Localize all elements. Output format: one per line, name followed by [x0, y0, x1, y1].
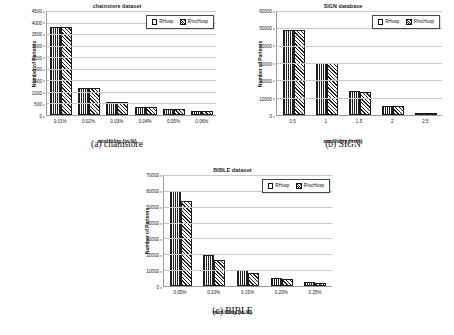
y-tick-label: 50000: [146, 205, 159, 210]
legend-b: RHusp RIncHusp: [372, 15, 440, 29]
legend-label-rhusp-b: RHusp: [385, 19, 399, 24]
gridline: [47, 46, 216, 47]
legend-label-rinchusp-b: RIncHusp: [414, 19, 434, 24]
x-tick-label: 2.5: [422, 119, 428, 124]
gridline: [164, 254, 332, 255]
gridline: [164, 223, 332, 224]
x-axis-ticks-a: 0.01%0.02%0.03%0.04%0.05%0.06%: [12, 116, 222, 127]
y-tick-label: 3000: [32, 43, 42, 48]
y-tick-label: 2000: [32, 67, 42, 72]
gridline: [47, 11, 216, 12]
x-tick-label: 0.5: [289, 119, 295, 124]
legend-item-rinchusp-c: RIncHusp: [296, 183, 324, 189]
legend-item-rhusp-a: RHusp: [152, 19, 174, 25]
plot-area-a: Number of Patterns 050010001500200025003…: [12, 11, 222, 116]
legend-swatch-icon-rinchusp-b: [406, 19, 412, 25]
bar-RIncHusp: [360, 92, 371, 115]
y-tick-label: 30000: [146, 237, 159, 242]
y-tick-label: 4500: [32, 9, 42, 14]
y-tick-label: 20000: [146, 253, 159, 258]
bar-RIncHusp: [214, 260, 225, 286]
bar-RHusp: [316, 63, 327, 115]
y-tick-label: 40000: [146, 221, 159, 226]
y-axis-ticks-c: 010000200003000040000500006000070000: [133, 175, 161, 287]
legend-swatch-icon-rinchusp-a: [180, 19, 186, 25]
bar-RHusp: [135, 107, 146, 115]
bar-RIncHusp: [294, 30, 305, 115]
bar-RHusp: [237, 270, 248, 286]
panel-sign: SIGN database Number of Patterns 0100002…: [238, 2, 448, 160]
bar-RHusp: [271, 278, 282, 286]
chart-title-a: chainstore dataset: [12, 2, 222, 11]
gridline: [47, 69, 216, 70]
gridline: [47, 80, 216, 81]
gridline: [277, 11, 442, 12]
bar-RIncHusp: [248, 273, 259, 286]
legend-swatch-icon-rinchusp-c: [296, 183, 302, 189]
x-tick-label: 0.15%: [241, 290, 254, 295]
x-tick-label: 1.5: [356, 119, 362, 124]
x-axis-ticks-b: 0.511.522.5: [238, 116, 448, 127]
gridline: [47, 103, 216, 104]
gridline: [47, 34, 216, 35]
bar-RHusp: [191, 111, 202, 115]
caption-c: (c) BIBLE: [125, 306, 340, 316]
gridline: [164, 207, 332, 208]
y-tick-label: 50000: [259, 26, 272, 31]
bar-RHusp: [382, 106, 393, 115]
y-axis-ticks-b: 0100002000030000400005000060000: [246, 11, 274, 116]
x-tick-label: 0.01%: [54, 119, 67, 124]
y-tick-label: 10000: [259, 96, 272, 101]
bar-RHusp: [304, 282, 315, 286]
legend-label-rinchusp-c: RIncHusp: [304, 183, 324, 188]
y-tick-label: 2500: [32, 55, 42, 60]
y-tick-label: 20000: [259, 78, 272, 83]
y-tick-label: 60000: [259, 9, 272, 14]
x-tick-label: 0.25%: [309, 290, 322, 295]
x-tick-label: 2: [391, 119, 394, 124]
y-tick-label: 70000: [146, 173, 159, 178]
y-tick-label: 40000: [259, 43, 272, 48]
bar-RIncHusp: [61, 27, 72, 115]
bar-RHusp: [163, 109, 174, 115]
legend-item-rinchusp-a: RIncHusp: [180, 19, 208, 25]
y-tick-label: 1000: [32, 90, 42, 95]
x-tick-label: 0.03%: [110, 119, 123, 124]
figure-multi-panel-bar-charts: chainstore dataset Number of Patterns 05…: [0, 0, 454, 335]
bar-RIncHusp: [202, 111, 213, 115]
legend-item-rhusp-c: RHusp: [268, 183, 290, 189]
y-tick-label: 3500: [32, 32, 42, 37]
bar-RIncHusp: [181, 201, 192, 286]
caption-a: (a) chainstore: [12, 139, 222, 149]
y-axis-ticks-a: 050010001500200025003000350040004500: [20, 11, 44, 116]
bar-RHusp: [415, 113, 426, 115]
x-tick-label: 0.02%: [82, 119, 95, 124]
bar-group: [103, 11, 131, 115]
gridline: [164, 238, 332, 239]
legend-label-rhusp-a: RHusp: [159, 19, 173, 24]
bar-RIncHusp: [426, 113, 437, 115]
gridline: [277, 46, 442, 47]
legend-a: RHusp RIncHusp: [146, 15, 214, 29]
plot-area-b: Number of Patterns 010000200003000040000…: [238, 11, 448, 116]
gridline: [47, 57, 216, 58]
y-tick-label: 4000: [32, 20, 42, 25]
x-tick-label: 0.10%: [207, 290, 220, 295]
bar-group: [75, 11, 103, 115]
y-tick-label: 1500: [32, 78, 42, 83]
gridline: [277, 80, 442, 81]
y-tick-label: 10000: [146, 269, 159, 274]
gridline: [164, 270, 332, 271]
x-tick-label: 0.05%: [167, 119, 180, 124]
legend-label-rinchusp-a: RIncHusp: [188, 19, 208, 24]
bar-RIncHusp: [282, 279, 293, 286]
plot-area-c: Number of Patterns 010000200003000040000…: [125, 175, 340, 287]
bar-RIncHusp: [315, 283, 326, 286]
bar-RHusp: [349, 91, 360, 115]
bar-RHusp: [283, 30, 294, 115]
x-axis-ticks-c: 0.05%0.10%0.15%0.20%0.25%: [125, 287, 340, 298]
gridline: [277, 98, 442, 99]
x-tick-label: 0.20%: [275, 290, 288, 295]
x-tick-label: 1: [325, 119, 328, 124]
x-tick-label: 0.05%: [173, 290, 186, 295]
